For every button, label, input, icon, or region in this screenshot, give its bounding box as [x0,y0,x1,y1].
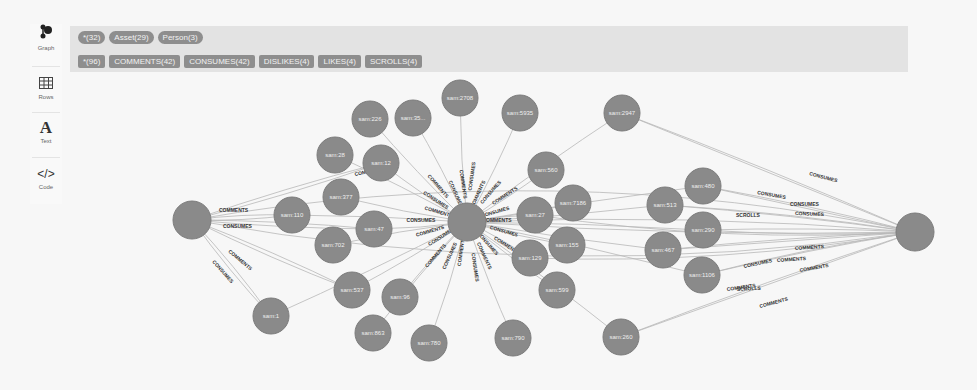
asset-node[interactable]: sam:780 [411,325,447,361]
node-caption: sam:2947 [609,110,636,116]
edge-label: SCROLLS [737,285,762,292]
asset-node[interactable]: sam:28 [317,137,353,173]
node-caption: sam:537 [340,287,364,293]
asset-node[interactable]: sam:96 [382,279,418,315]
asset-node[interactable]: sam:1 [253,298,289,334]
asset-node[interactable]: sam:790 [495,320,531,356]
asset-node[interactable]: sam:467 [645,232,681,268]
node-caption: sam:129 [518,255,542,261]
graph-result-frame: Graph Rows A Text </> Code *(32) Asset(2… [0,0,977,390]
edge-label: CONSUMES [467,161,477,191]
edge-label-layer: COMMENTSCONSUMESCOMMENTSCONSUMESCONSUMES… [211,161,839,309]
person-node[interactable] [896,213,934,251]
node-caption: sam:1106 [689,272,716,278]
node-caption: sam:1 [263,313,280,319]
node-caption: sam:467 [651,247,675,253]
node-caption: sam:599 [545,287,569,293]
edge-label: CONSUMES [223,223,253,229]
edge-label: COMMENTS [227,248,254,272]
node-caption: sam:702 [321,242,345,248]
asset-node[interactable]: sam:2947 [604,95,640,131]
person-node[interactable] [173,201,211,239]
asset-node[interactable]: sam:5935 [502,95,538,131]
node-caption: sam:28 [325,152,345,158]
node-caption: sam:560 [534,167,558,173]
asset-node[interactable]: sam:513 [647,187,683,223]
asset-node[interactable]: sam:290 [685,212,721,248]
asset-node[interactable]: sam:47 [356,211,392,247]
edge-label: CONSUMES [809,170,839,183]
relationship-edge[interactable] [703,186,915,232]
edge-label: CONSUMES [743,257,773,269]
asset-node[interactable]: sam:599 [539,272,575,308]
edge-label: COMMENTS [219,207,249,213]
node-caption: sam:35... [401,115,426,121]
asset-node[interactable]: sam:110 [274,197,310,233]
asset-node[interactable]: sam:129 [512,240,548,276]
node-caption: sam:47 [364,226,384,232]
node-caption: sam:260 [609,334,633,340]
asset-node[interactable]: sam:226 [352,101,388,137]
asset-node[interactable]: sam:537 [334,272,370,308]
asset-node[interactable]: sam:7186 [555,185,591,221]
node-caption: sam:790 [501,335,525,341]
asset-node[interactable]: sam:377 [323,179,359,215]
asset-node[interactable]: sam:863 [355,315,391,351]
node-caption: sam:7186 [560,200,587,206]
asset-node[interactable]: sam:27 [517,197,553,233]
node-caption: sam:226 [358,116,382,122]
edge-label: CONSUMES [790,201,820,207]
asset-node[interactable]: sam:35... [395,100,431,136]
node-caption: sam:96 [390,294,410,300]
asset-node[interactable]: sam:480 [685,168,721,204]
edge-label: COMMENTS [777,255,807,263]
person-node[interactable] [448,203,486,241]
edge-label: COMMENTS [799,262,829,273]
node-caption: sam:480 [691,183,715,189]
graph-canvas[interactable]: COMMENTSCONSUMESCOMMENTSCONSUMESCONSUMES… [0,0,977,390]
asset-node[interactable]: sam:1106 [684,257,720,293]
node-caption: sam:863 [361,330,385,336]
asset-node[interactable]: sam:560 [528,152,564,188]
node-caption: sam:780 [417,340,441,346]
asset-node[interactable]: sam:702 [315,227,351,263]
asset-node[interactable]: sam:155 [549,227,585,263]
asset-node[interactable]: sam:12 [363,145,399,181]
node-caption: sam:2708 [447,95,474,101]
edge-label: COMMENTS [482,217,512,223]
node-caption: sam:155 [555,242,579,248]
node-caption: sam:12 [371,160,391,166]
node-layer: sam:226sam:35...sam:2708sam:5935sam:2947… [173,80,934,361]
edge-label: CONSUMES [407,217,437,223]
node-caption: sam:27 [525,212,545,218]
asset-node[interactable]: sam:260 [603,319,639,355]
edge-label: CONSUMES [795,210,825,217]
edge-label: SCROLLS [736,212,761,218]
node-caption: sam:377 [329,194,353,200]
node-caption: sam:513 [653,202,677,208]
asset-node[interactable]: sam:2708 [442,80,478,116]
node-caption: sam:290 [691,227,715,233]
edge-label: COMMENTS [759,295,789,309]
node-caption: sam:5935 [507,110,534,116]
edge-label: COMMENTS [795,243,825,251]
node-caption: sam:110 [281,212,304,218]
